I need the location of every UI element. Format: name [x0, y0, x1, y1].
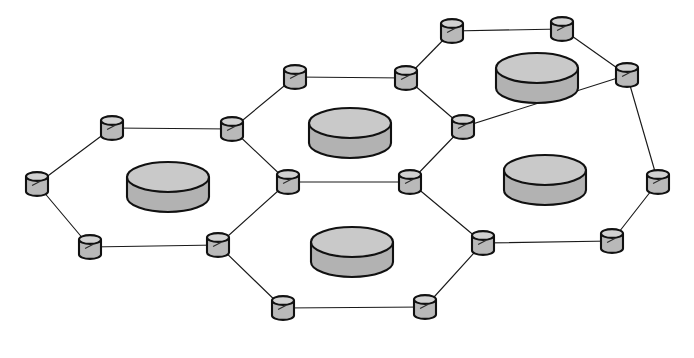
sensor-node-cylinder[interactable]: [601, 229, 623, 253]
sensor-node-cylinder[interactable]: [101, 116, 123, 140]
sensor-node-cylinder[interactable]: [221, 117, 243, 141]
cluster-head-top: [309, 108, 391, 138]
cluster-head-disk[interactable]: [309, 108, 391, 158]
sensor-node-cylinder[interactable]: [551, 17, 573, 41]
sensor-node-top: [472, 231, 494, 240]
sensor-node-top: [395, 66, 417, 75]
cluster-head-top: [311, 227, 393, 257]
cluster-head-disk[interactable]: [311, 227, 393, 277]
sensor-node-cylinder[interactable]: [79, 235, 101, 259]
sensor-node-top: [551, 17, 573, 26]
sensor-node-top: [277, 170, 299, 179]
network-link: [112, 128, 232, 129]
sensor-node-top: [79, 235, 101, 244]
cluster-head-top: [127, 162, 209, 192]
sensor-node-top: [601, 229, 623, 238]
network-topology-svg: Hexagonal clustered sensor network topol…: [0, 0, 694, 358]
sensor-node-cylinder[interactable]: [616, 63, 638, 87]
sensor-node-top: [221, 117, 243, 126]
sensor-node-top: [616, 63, 638, 72]
sensor-node-cylinder[interactable]: [284, 65, 306, 89]
network-link: [295, 77, 406, 78]
sensor-node-top: [207, 233, 229, 242]
sensor-node-top: [272, 296, 294, 305]
sensor-node-top: [284, 65, 306, 74]
sensor-node-top: [647, 170, 669, 179]
cluster-head-disk[interactable]: [127, 162, 209, 212]
network-diagram-canvas: Hexagonal clustered sensor network topol…: [0, 0, 694, 358]
network-link: [483, 241, 612, 243]
sensor-node-cylinder[interactable]: [399, 170, 421, 194]
network-link: [283, 307, 425, 308]
sensor-node-top: [414, 295, 436, 304]
sensor-node-cylinder[interactable]: [277, 170, 299, 194]
network-link: [90, 245, 218, 247]
sensor-node-cylinder[interactable]: [472, 231, 494, 255]
sensor-node-cylinder[interactable]: [395, 66, 417, 90]
cluster-head-disk[interactable]: [504, 155, 586, 205]
cluster-head-top: [504, 155, 586, 185]
cluster-head-disk[interactable]: [496, 53, 578, 103]
sensor-node-top: [441, 19, 463, 28]
network-link: [627, 75, 658, 182]
sensor-node-top: [101, 116, 123, 125]
sensor-node-cylinder[interactable]: [441, 19, 463, 43]
sensor-node-cylinder[interactable]: [414, 295, 436, 319]
sensor-node-cylinder[interactable]: [26, 172, 48, 196]
sensor-node-cylinder[interactable]: [272, 296, 294, 320]
network-link: [452, 29, 562, 31]
sensor-node-cylinder[interactable]: [207, 233, 229, 257]
cluster-heads-layer: [127, 53, 586, 277]
cluster-head-top: [496, 53, 578, 83]
sensor-node-top: [452, 115, 474, 124]
sensor-node-top: [26, 172, 48, 181]
sensor-node-cylinder[interactable]: [647, 170, 669, 194]
sensor-node-top: [399, 170, 421, 179]
sensor-node-cylinder[interactable]: [452, 115, 474, 139]
